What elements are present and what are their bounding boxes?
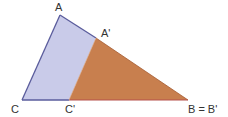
label-A: A [55, 1, 63, 13]
geometry-diagram: A A' C C' B = B' [0, 0, 228, 117]
label-C: C [11, 103, 19, 115]
label-B: B = B' [188, 103, 217, 115]
label-C-prime: C' [65, 103, 75, 115]
label-A-prime: A' [101, 27, 110, 39]
